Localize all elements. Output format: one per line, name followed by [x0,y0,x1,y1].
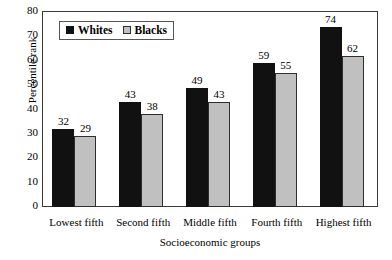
legend-item-blacks: Blacks [123,24,168,36]
bar-blacks-1 [141,114,163,207]
legend-item-whites: Whites [66,24,113,36]
bar-group: 4943 [177,12,244,207]
bar-blacks-3 [275,73,297,207]
y-axis-tick-label: 0 [16,200,38,211]
bar-blacks-4 [342,56,364,207]
y-axis-tick-label: 20 [16,151,38,162]
bars-layer: 32294338494359557462 [43,12,377,207]
x-axis-tick-label: Highest fifth [304,216,384,229]
bar-value-label: 49 [180,75,214,86]
y-axis-tick-label: 70 [16,29,38,40]
bar-blacks-0 [74,136,96,207]
legend-label: Whites [78,24,113,36]
x-axis-tick-labels: Lowest fifthSecond fifthMiddle fifthFour… [42,216,378,232]
bar-chart: Percentile rank 80706050403020100 322943… [0,0,392,260]
bar-group: 3229 [43,12,110,207]
y-axis-tick-label: 10 [16,176,38,187]
y-axis-tick-labels: 80706050403020100 [16,11,38,207]
chart-legend: WhitesBlacks [59,21,174,40]
bar-value-label: 74 [314,14,348,25]
bar-group: 7462 [310,12,377,207]
y-axis-tick-label: 50 [16,78,38,89]
bar-group: 4338 [110,12,177,207]
bar-group: 5955 [243,12,310,207]
black-square-swatch [66,26,74,34]
bar-value-label: 55 [269,60,303,71]
bar-value-label: 43 [113,89,147,100]
y-axis-tick-label: 80 [16,5,38,16]
y-axis-tick-label: 30 [16,127,38,138]
y-axis-tick-label: 60 [16,54,38,65]
bar-value-label: 43 [202,89,236,100]
gray-square-swatch [123,26,131,34]
bar-blacks-2 [208,102,230,207]
legend-label: Blacks [135,24,168,36]
bar-value-label: 62 [336,43,370,54]
x-axis-title: Socioeconomic groups [42,236,378,249]
bar-whites-3 [253,63,275,207]
bar-whites-1 [119,102,141,207]
bar-value-label: 29 [68,123,102,134]
y-axis-tick-label: 40 [16,103,38,114]
bar-value-label: 38 [135,101,169,112]
bar-whites-2 [186,88,208,207]
bar-whites-0 [52,129,74,207]
